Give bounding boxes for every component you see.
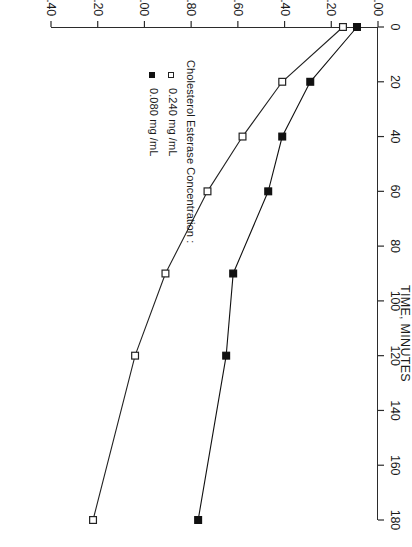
series-line-1 xyxy=(198,27,357,520)
legend-entry-label-0: 0.240 mg /mL xyxy=(167,88,179,156)
y-tick-label: 1.20 xyxy=(91,0,105,16)
x-tick-label: 140 xyxy=(388,400,402,420)
x-tick-label: 80 xyxy=(388,239,402,253)
y-tick-label: 1.00 xyxy=(137,0,151,16)
data-point-marker xyxy=(265,188,272,195)
y-tick-label: 0.80 xyxy=(184,0,198,16)
data-point-marker xyxy=(239,133,246,140)
data-point-marker xyxy=(195,517,202,524)
y-tick-label: 0.20 xyxy=(324,0,338,16)
data-point-marker xyxy=(204,188,211,195)
y-tick-label: 0.40 xyxy=(278,0,292,16)
legend-title: Cholesterol Esterase Concentration : xyxy=(185,60,197,243)
data-point-marker xyxy=(230,270,237,277)
data-point-marker xyxy=(223,352,230,359)
x-tick-label: 160 xyxy=(388,455,402,475)
data-point-marker xyxy=(307,78,314,85)
x-tick-label: 0 xyxy=(388,24,402,31)
x-tick-label: 180 xyxy=(388,510,402,530)
data-point-marker xyxy=(132,352,139,359)
series-line-0 xyxy=(93,27,343,520)
x-tick-label: 60 xyxy=(388,185,402,199)
data-point-marker xyxy=(279,133,286,140)
x-axis-title: TIME, MINUTES xyxy=(398,285,412,382)
y-tick-label: 0.60 xyxy=(231,0,245,16)
legend-entry-label-1: 0.080 mg /mL xyxy=(148,88,160,156)
x-tick-label: 40 xyxy=(388,130,402,144)
legend-marker-0 xyxy=(168,72,174,78)
y-tick-label: 0.00 xyxy=(371,0,385,16)
data-point-marker xyxy=(354,24,361,31)
y-tick-label: 1.40 xyxy=(44,0,58,16)
x-tick-label: 20 xyxy=(388,75,402,89)
data-point-marker xyxy=(279,78,286,85)
data-point-marker xyxy=(90,517,97,524)
legend-marker-1 xyxy=(149,72,155,78)
data-point-marker xyxy=(162,270,169,277)
data-point-marker xyxy=(340,24,347,31)
